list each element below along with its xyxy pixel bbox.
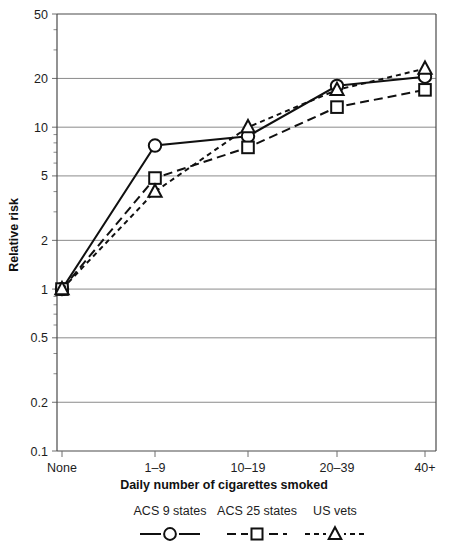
y-tick-label: 50 xyxy=(34,8,48,22)
x-tick-label: None xyxy=(47,461,77,475)
legend-label-2: ACS 25 states xyxy=(217,504,297,518)
x-tick-label: 40+ xyxy=(414,461,435,475)
y-tick-label: 0.1 xyxy=(31,445,48,459)
circle-marker xyxy=(164,528,176,540)
relative-risk-chart-figure: 5020105210.50.20.1 None1–910–1920–3940+ … xyxy=(0,0,449,555)
legend-label-3: US vets xyxy=(313,504,357,518)
square-marker xyxy=(331,101,343,113)
y-tick-label: 0.5 xyxy=(31,331,48,345)
square-marker xyxy=(149,172,161,184)
y-axis-title: Relative risk xyxy=(7,198,21,272)
square-marker xyxy=(419,84,431,96)
chart-canvas: 5020105210.50.20.1 None1–910–1920–3940+ … xyxy=(0,0,449,555)
y-tick-label: 0.2 xyxy=(31,396,48,410)
circle-marker xyxy=(149,139,161,151)
x-tick-label: 1–9 xyxy=(145,461,166,475)
y-tick-label: 10 xyxy=(34,121,48,135)
x-axis-title: Daily number of cigarettes smoked xyxy=(120,478,328,492)
x-tick-label: 10–19 xyxy=(231,461,266,475)
y-tick-label: 2 xyxy=(41,234,48,248)
square-marker xyxy=(242,142,254,154)
x-tick-label: 20–39 xyxy=(320,461,355,475)
y-tick-label: 5 xyxy=(41,169,48,183)
legend-label-1: ACS 9 states xyxy=(134,504,207,518)
y-tick-label: 1 xyxy=(41,283,48,297)
square-marker xyxy=(251,528,262,539)
y-tick-label: 20 xyxy=(34,72,48,86)
